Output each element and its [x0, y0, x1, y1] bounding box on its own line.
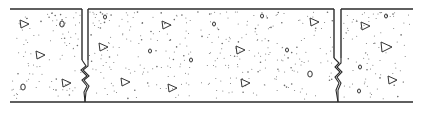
slab-drawing — [0, 0, 421, 113]
aggregate-triangle — [162, 21, 171, 29]
aggregate-triangle — [388, 76, 397, 84]
concrete-slab-illustration: Concrete slab with control joints (sawcu… — [0, 0, 421, 113]
aggregate-pebble — [359, 65, 362, 69]
aggregate-pebble — [149, 49, 152, 53]
aggregate-pebble — [286, 48, 289, 52]
aggregate-triangle — [62, 79, 71, 87]
aggregate-pebble — [104, 15, 107, 19]
aggregate-pebble — [308, 71, 313, 77]
aggregate-pebble — [190, 58, 193, 62]
aggregate-triangle — [361, 22, 370, 30]
aggregate-pebble — [213, 22, 216, 26]
aggregate-pebble — [385, 14, 388, 18]
aggregate-pebble — [21, 84, 26, 90]
aggregate-triangle — [99, 43, 108, 51]
aggregate-triangle — [236, 46, 245, 54]
aggregate-pebble — [358, 89, 361, 93]
aggregate-pebble — [261, 14, 264, 18]
aggregate-triangle — [168, 84, 177, 92]
slab-edges — [10, 9, 413, 102]
aggregate-triangle — [381, 42, 392, 52]
aggregate-triangle — [310, 18, 319, 26]
aggregate-pebble — [60, 21, 65, 27]
sand-stipple — [12, 11, 411, 99]
aggregate-triangle — [20, 20, 29, 28]
aggregate-triangle — [241, 79, 250, 87]
aggregate-triangle — [121, 78, 130, 86]
aggregate-triangle — [36, 51, 45, 59]
